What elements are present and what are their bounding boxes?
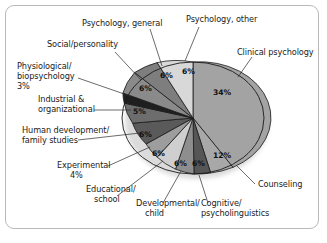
label-psychology-other: Psychology, other: [186, 15, 257, 25]
pie-value-clinical-psychology: 34%: [213, 89, 231, 97]
label-social-personality: Social/personality: [47, 40, 118, 50]
pie-chart-figure: 34% 12% 6% 6% 6% 6% 5% 6% 6% 6% Clinical…: [0, 0, 327, 243]
label-developmental-line2: child: [145, 209, 164, 219]
leader-social: [115, 52, 141, 80]
label-psychology-general: Psychology, general: [82, 19, 162, 29]
label-educational-line2: school: [94, 195, 120, 205]
label-physiological-value: 3%: [17, 82, 30, 92]
leader-counseling: [237, 166, 255, 184]
label-counseling: Counseling: [258, 180, 302, 190]
pie-value-human-dev: 6%: [139, 131, 152, 139]
chart-plot-area: 34% 12% 6% 6% 6% 6% 5% 6% 6% 6% Clinical…: [0, 0, 327, 243]
pie-value-developmental: 6%: [174, 160, 187, 168]
pie-value-cognitive: 6%: [192, 160, 205, 168]
pie-value-psych-other: 6%: [182, 68, 195, 76]
label-cognitive-line2: psycholinguistics: [201, 209, 269, 219]
leader-physiological: [78, 78, 130, 96]
pie-value-educational: 6%: [152, 150, 165, 158]
label-human-dev-line2: family studies: [22, 136, 78, 146]
pie-value-social: 6%: [139, 85, 152, 93]
pie-value-counseling: 12%: [213, 152, 231, 160]
label-industrial-line2: organizational: [38, 105, 95, 115]
leader-psych-general: [150, 29, 162, 66]
pie-value-psych-general: 6%: [160, 72, 173, 80]
label-experimental-value: 4%: [70, 171, 83, 181]
label-experimental: Experimental: [57, 161, 110, 171]
label-clinical-psychology: Clinical psychology: [237, 48, 314, 58]
leader-psych-other: [185, 27, 199, 61]
pie-value-industrial: 5%: [133, 108, 146, 116]
